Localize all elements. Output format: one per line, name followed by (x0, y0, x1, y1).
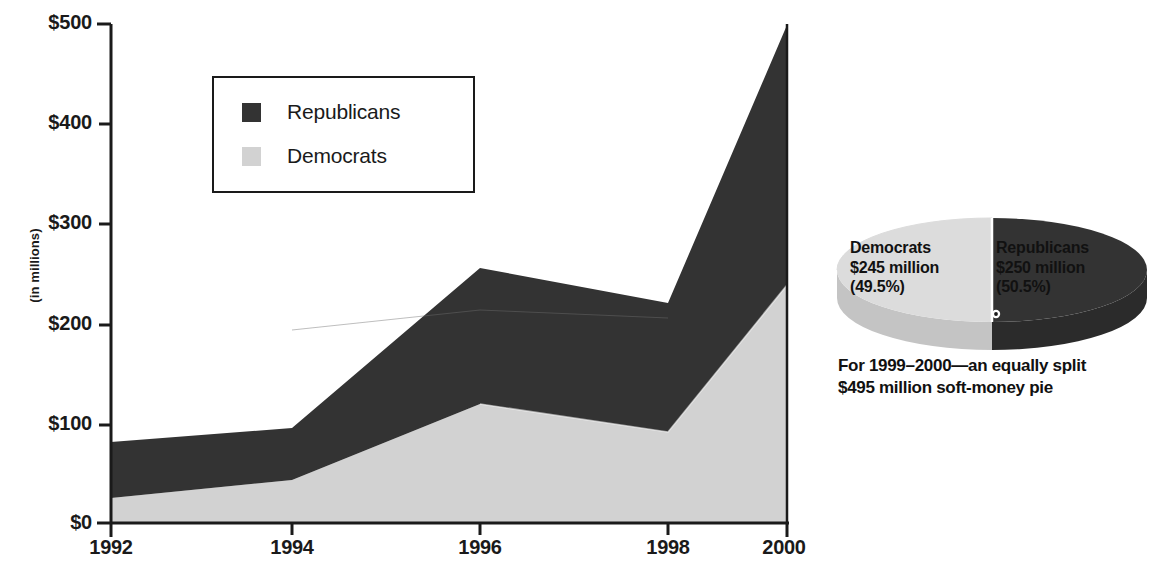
x-tick-2000: 2000 (739, 536, 829, 559)
pie-label-democrats: Democrats $245 million (49.5%) (850, 238, 939, 297)
legend-swatch-democrats (242, 147, 261, 166)
x-tick-1994: 1994 (247, 536, 337, 559)
x-tick-1998: 1998 (623, 536, 713, 559)
legend-swatch-republicans (242, 103, 261, 122)
soft-money-area-chart: (in millions) $500 $400 $300 $200 $100 $… (0, 0, 830, 580)
legend-item-republicans: Republicans (242, 100, 400, 124)
pie-label-republicans: Republicans $250 million (50.5%) (996, 238, 1089, 297)
legend-label-democrats: Democrats (287, 144, 387, 168)
legend-label-republicans: Republicans (287, 100, 400, 124)
pie-center-marker-core-icon (994, 312, 998, 316)
x-tick-1996: 1996 (435, 536, 525, 559)
x-tick-1992: 1992 (66, 536, 156, 559)
chart-legend: Republicans Democrats (212, 76, 475, 193)
pie-caption: For 1999–2000—an equally split $495 mill… (838, 355, 1157, 399)
legend-item-democrats: Democrats (242, 144, 387, 168)
soft-money-pie-figure: Democrats $245 million (49.5%) Republica… (830, 0, 1157, 580)
